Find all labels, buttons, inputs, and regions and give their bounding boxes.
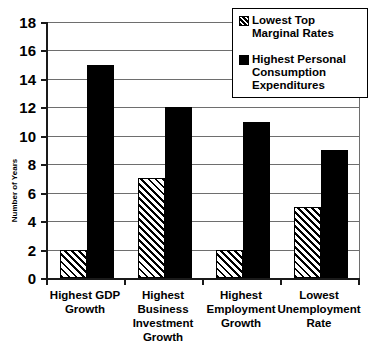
bar (87, 65, 114, 278)
x-axis-tick-mark (46, 278, 48, 285)
legend-swatch-icon (239, 55, 249, 65)
x-axis-category-label: Lowest Unemployment Rate (273, 288, 365, 330)
bar (216, 250, 243, 278)
x-axis-tick-mark (358, 278, 360, 285)
y-axis-tick-label: 18 (0, 15, 36, 30)
bar (243, 122, 270, 278)
y-axis-tick-label: 2 (0, 243, 36, 258)
y-axis-tick-label: 10 (0, 129, 36, 144)
bar (321, 150, 348, 278)
bar (294, 207, 321, 278)
legend-label: Highest Personal Consumption Expenditure… (252, 53, 346, 92)
bar (138, 178, 165, 278)
x-axis-tick-mark (280, 278, 282, 285)
legend-swatch-icon (239, 16, 249, 26)
legend-label: Lowest Top Marginal Rates (252, 14, 334, 40)
legend-entry: Lowest Top Marginal Rates (239, 14, 334, 40)
y-axis-tick-label: 16 (0, 43, 36, 58)
legend: Lowest Top Marginal RatesHighest Persona… (232, 8, 368, 98)
x-axis-tick-mark (124, 278, 126, 285)
y-axis-tick-label: 6 (0, 186, 36, 201)
bar (60, 250, 87, 278)
y-axis-tick-label: 8 (0, 157, 36, 172)
y-axis-tick-label: 14 (0, 72, 36, 87)
x-axis-tick-mark (202, 278, 204, 285)
bar-chart: Number of Years 181614121086420 Highest … (0, 0, 370, 349)
bar (165, 107, 192, 278)
y-axis-tick-label: 12 (0, 100, 36, 115)
y-axis-tick-label: 4 (0, 214, 36, 229)
y-axis-tick-label: 0 (0, 271, 36, 286)
legend-entry: Highest Personal Consumption Expenditure… (239, 53, 346, 92)
